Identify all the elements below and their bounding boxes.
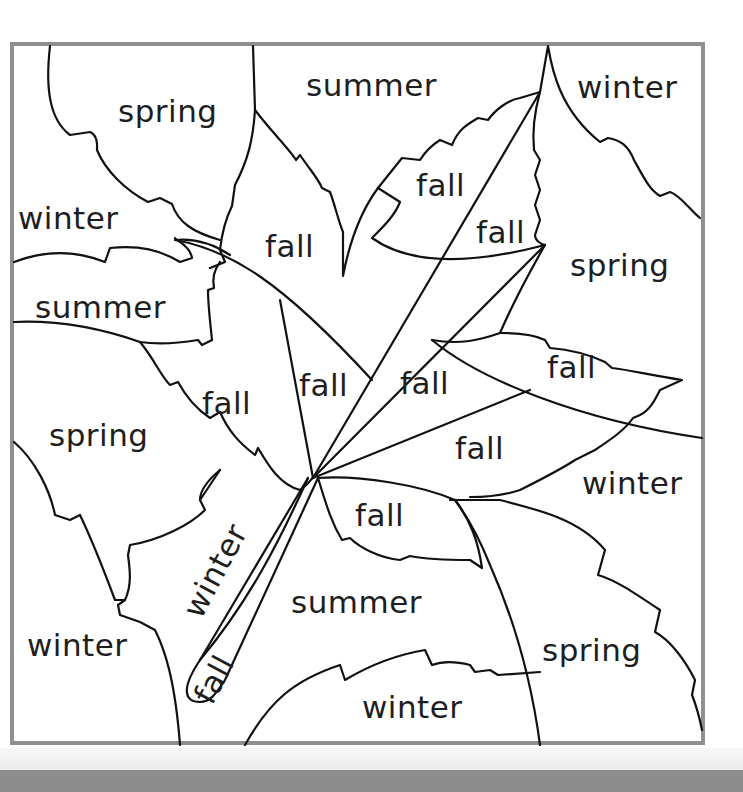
region-label-spring: spring: [542, 635, 642, 666]
region-label-fall: fall: [547, 352, 596, 383]
region-label-fall: fall: [416, 170, 465, 201]
region-label-winter: winter: [362, 692, 463, 723]
region-label-fall: fall: [400, 368, 449, 399]
region-label-fall: fall: [355, 500, 404, 531]
region-label-fall: fall: [455, 433, 504, 464]
region-label-winter: winter: [18, 203, 119, 234]
region-label-winter: winter: [577, 72, 678, 103]
region-label-spring: spring: [49, 420, 149, 451]
region-label-summer: summer: [35, 292, 166, 323]
region-label-fall: fall: [265, 231, 314, 262]
region-label-fall: fall: [299, 370, 348, 401]
region-label-summer: summer: [291, 587, 422, 618]
region-label-spring: spring: [570, 250, 670, 281]
region-label-spring: spring: [118, 96, 218, 127]
leaf-outline-drawing: [0, 0, 743, 792]
region-label-summer: summer: [306, 70, 437, 101]
region-label-winter: winter: [582, 468, 683, 499]
region-label-fall: fall: [476, 217, 525, 248]
region-label-fall: fall: [202, 388, 251, 419]
region-label-winter: winter: [27, 630, 128, 661]
